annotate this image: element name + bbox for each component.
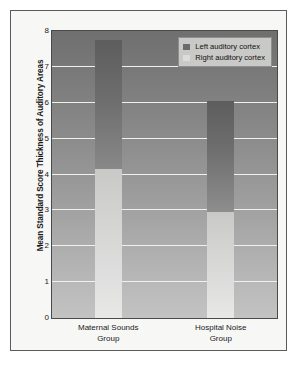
bar [207, 212, 234, 318]
y-axis-tick-label: 7 [33, 62, 49, 72]
gridline [52, 174, 277, 175]
y-axis-tick-label: 0 [33, 313, 49, 323]
legend-item-label: Left auditory cortex [195, 41, 260, 52]
x-axis-category-labels: Maternal SoundsGroupHospital NoiseGroup [51, 323, 278, 349]
x-axis-category-label: Maternal SoundsGroup [53, 323, 163, 344]
y-axis-tick-label: 2 [33, 241, 49, 251]
legend-swatch-right-icon [183, 55, 190, 61]
gridline [52, 102, 277, 103]
y-axis-tick-label: 1 [33, 277, 49, 287]
legend-item-label: Right auditory cortex [195, 52, 265, 63]
gridline [52, 138, 277, 139]
y-axis-tick-label: 6 [33, 98, 49, 108]
x-axis-category-label-line: Maternal Sounds [53, 323, 163, 334]
x-axis-category-label-line: Group [166, 334, 276, 345]
gridline [52, 281, 277, 282]
gridline [52, 209, 277, 210]
plot-area: Left auditory cortexRight auditory corte… [51, 30, 278, 319]
gridline [52, 245, 277, 246]
y-axis-tick-label: 8 [33, 26, 49, 36]
y-axis-tick-label: 3 [33, 205, 49, 215]
figure-caption [10, 356, 290, 366]
figure-frame: Mean Standard Score Thickness of Auditor… [10, 10, 287, 351]
x-axis-category-label-line: Group [53, 334, 163, 345]
bar [95, 169, 122, 318]
legend-swatch-left-icon [183, 44, 190, 50]
y-axis-tick-labels: 876543210 [33, 30, 49, 319]
legend-item: Right auditory cortex [183, 52, 265, 63]
y-axis-tick-label: 5 [33, 134, 49, 144]
x-axis-category-label-line: Hospital Noise [166, 323, 276, 334]
legend-item: Left auditory cortex [183, 41, 265, 52]
y-axis-tick-label: 4 [33, 170, 49, 180]
x-axis-category-label: Hospital NoiseGroup [166, 323, 276, 344]
chart-legend: Left auditory cortexRight auditory corte… [178, 37, 272, 67]
